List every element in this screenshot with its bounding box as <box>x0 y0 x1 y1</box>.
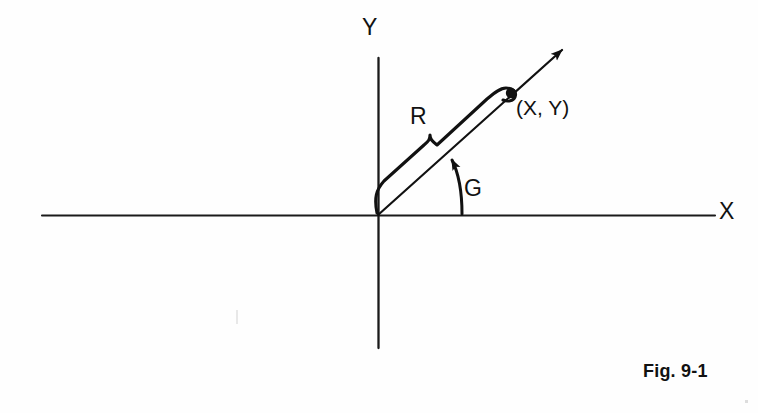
paper-speck-2 <box>745 400 748 403</box>
angle-label: G <box>464 177 482 200</box>
paper-speck <box>236 310 238 324</box>
point-coordinates-label: (X, Y) <box>516 97 569 118</box>
angle-arc <box>452 160 462 214</box>
polar-coordinate-diagram <box>0 0 758 413</box>
radius-brace <box>376 88 516 213</box>
radius-label: R <box>410 105 427 128</box>
point-marker <box>506 88 516 98</box>
figure-container: Y X R G (X, Y) Fig. 9-1 <box>0 0 758 413</box>
figure-caption: Fig. 9-1 <box>643 362 708 380</box>
x-axis-label: X <box>719 200 734 223</box>
y-axis-label: Y <box>362 16 377 39</box>
